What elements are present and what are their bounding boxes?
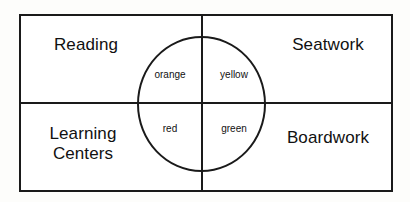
group-label-yellow: yellow [207,69,261,81]
quadrant-label-learning-centers: Learning Centers [30,124,136,164]
center-ellipse-outline [137,36,266,172]
diagram-canvas: Reading Seatwork Learning Centers Boardw… [0,0,410,202]
group-label-orange: orange [143,69,197,81]
quadrant-label-boardwork: Boardwork [272,128,384,148]
quadrant-label-reading: Reading [36,35,136,55]
group-label-green: green [207,123,261,135]
group-label-red: red [143,123,197,135]
quadrant-label-seatwork: Seatwork [278,35,378,55]
